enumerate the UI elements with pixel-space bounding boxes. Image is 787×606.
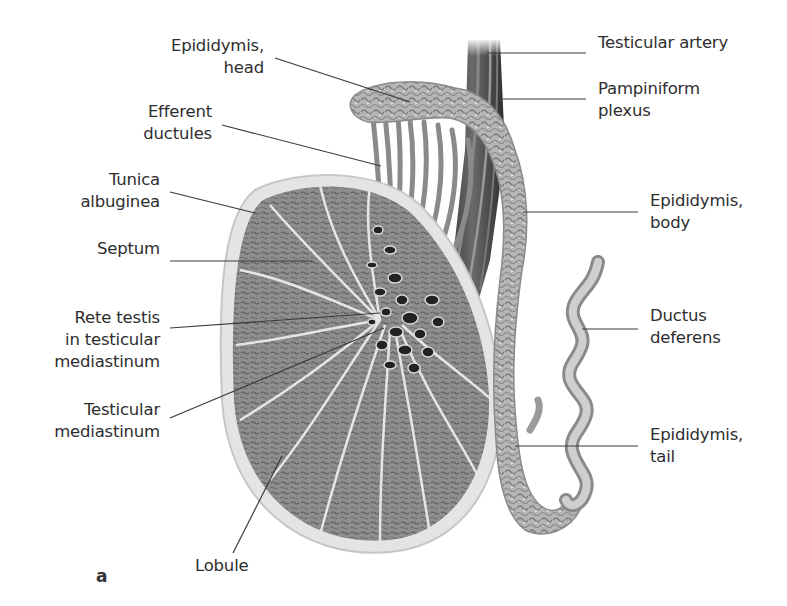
leader-line-epididymis-head — [275, 58, 410, 102]
leader-line-tunica-albuginea — [170, 192, 255, 213]
leader-line-efferent-ductules — [222, 125, 381, 166]
label-lobule: Lobule — [195, 555, 265, 577]
label-epididymis-tail: Epididymis, tail — [650, 424, 743, 468]
panel-letter: a — [96, 566, 107, 586]
label-rete-testis: Rete testis in testicular mediastinum — [30, 307, 160, 373]
anatomical-figure: Epididymis, headEfferent ductulesTunica … — [0, 0, 787, 606]
label-septum: Septum — [60, 238, 160, 260]
label-tunica-albuginea: Tunica albuginea — [60, 169, 160, 213]
label-epididymis-body: Epididymis, body — [650, 190, 743, 234]
label-testicular-artery: Testicular artery — [598, 32, 728, 54]
label-pampiniform-plexus: Pampiniform plexus — [598, 78, 700, 122]
label-epididymis-head: Epididymis, head — [160, 35, 264, 79]
ductus-deferens — [530, 262, 598, 505]
label-testicular-mediastinum: Testicular mediastinum — [30, 399, 160, 443]
label-efferent-ductules: Efferent ductules — [120, 101, 212, 145]
label-ductus-deferens: Ductus deferens — [650, 305, 721, 349]
